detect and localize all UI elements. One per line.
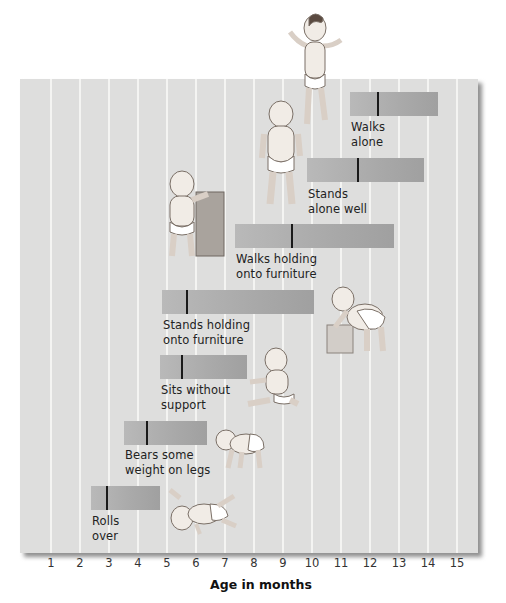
x-axis-title-row: Age in months — [0, 577, 506, 592]
gridline-13 — [398, 79, 400, 553]
label-stands-holding-furniture: Stands holding onto furniture — [163, 318, 250, 348]
median-marker — [377, 92, 379, 116]
x-axis-title: Age in months — [210, 577, 312, 592]
gridline-6 — [195, 79, 197, 553]
bar-walks-holding-furniture — [235, 224, 394, 248]
median-marker — [146, 421, 148, 445]
x-tick-15: 15 — [447, 556, 467, 570]
label-stands-alone-well: Stands alone well — [308, 187, 367, 217]
median-marker — [181, 355, 183, 379]
plot-area — [20, 79, 478, 553]
median-marker — [106, 486, 108, 510]
baby-standing-alone-illustration — [258, 98, 304, 210]
gridline-4 — [137, 79, 139, 553]
baby-sitting-illustration — [244, 346, 300, 408]
bar-sits-without-support — [160, 355, 247, 379]
x-tick-9: 9 — [273, 556, 293, 570]
label-sits-without-support: Sits without support — [161, 383, 230, 413]
x-tick-5: 5 — [157, 556, 177, 570]
gridline-10 — [311, 79, 313, 553]
gridline-14 — [427, 79, 429, 553]
median-marker — [291, 224, 293, 248]
bar-stands-holding-furniture — [162, 290, 314, 314]
bar-walks-alone — [350, 92, 438, 116]
gridline-1 — [50, 79, 52, 553]
motor-milestones-chart: Walks alone Stands alone well Walks hold… — [0, 0, 506, 603]
baby-rolling-over-illustration — [166, 486, 238, 536]
median-marker — [357, 158, 359, 182]
x-tick-1: 1 — [41, 556, 61, 570]
x-tick-10: 10 — [302, 556, 322, 570]
gridline-3 — [108, 79, 110, 553]
gridline-5 — [166, 79, 168, 553]
gridline-2 — [79, 79, 81, 553]
bar-rolls-over — [91, 486, 160, 510]
x-tick-11: 11 — [331, 556, 351, 570]
x-tick-6: 6 — [186, 556, 206, 570]
x-tick-3: 3 — [99, 556, 119, 570]
baby-cruising-illustration — [323, 283, 389, 355]
label-bears-weight-on-legs: Bears some weight on legs — [125, 448, 210, 478]
x-tick-2: 2 — [70, 556, 90, 570]
gridline-7 — [224, 79, 226, 553]
baby-standing-with-box-illustration — [162, 166, 232, 260]
gridline-15 — [456, 79, 458, 553]
bar-stands-alone-well — [307, 158, 424, 182]
x-tick-8: 8 — [244, 556, 264, 570]
label-rolls-over: Rolls over — [92, 514, 119, 544]
median-marker — [186, 290, 188, 314]
label-walks-alone: Walks alone — [351, 120, 385, 150]
label-walks-holding-furniture: Walks holding onto furniture — [236, 252, 317, 282]
bar-bears-weight-on-legs — [124, 421, 207, 445]
x-tick-7: 7 — [215, 556, 235, 570]
x-tick-13: 13 — [389, 556, 409, 570]
x-tick-4: 4 — [128, 556, 148, 570]
gridline-8 — [253, 79, 255, 553]
x-tick-14: 14 — [418, 556, 438, 570]
x-tick-12: 12 — [360, 556, 380, 570]
baby-crawling-illustration — [212, 426, 268, 472]
